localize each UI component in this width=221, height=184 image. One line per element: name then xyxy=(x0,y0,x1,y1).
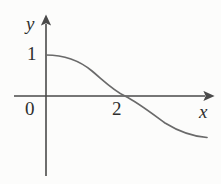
y-tick-label-1: 1 xyxy=(27,44,37,63)
figure-container: y x 1 0 2 xyxy=(0,0,221,184)
x-axis-label: x xyxy=(199,102,207,121)
x-tick-label-2: 2 xyxy=(112,99,122,118)
origin-label: 0 xyxy=(25,99,35,118)
y-axis-label: y xyxy=(26,14,34,33)
